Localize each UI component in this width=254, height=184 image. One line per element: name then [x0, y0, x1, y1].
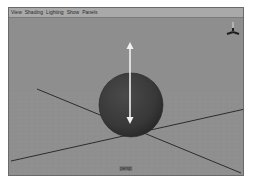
- sphere-object[interactable]: [99, 73, 163, 137]
- menu-lighting[interactable]: Lighting: [46, 8, 64, 17]
- camera-label: persp: [119, 166, 132, 171]
- viewport-menubar: View Shading Lighting Show Panels: [9, 8, 243, 18]
- menu-panels[interactable]: Panels: [82, 8, 97, 17]
- menu-view[interactable]: View: [11, 8, 22, 17]
- 3d-viewport[interactable]: View Shading Lighting Show Panels persp: [8, 7, 244, 176]
- scene-canvas[interactable]: [9, 8, 244, 176]
- menu-show[interactable]: Show: [67, 8, 80, 17]
- menu-shading[interactable]: Shading: [25, 8, 43, 17]
